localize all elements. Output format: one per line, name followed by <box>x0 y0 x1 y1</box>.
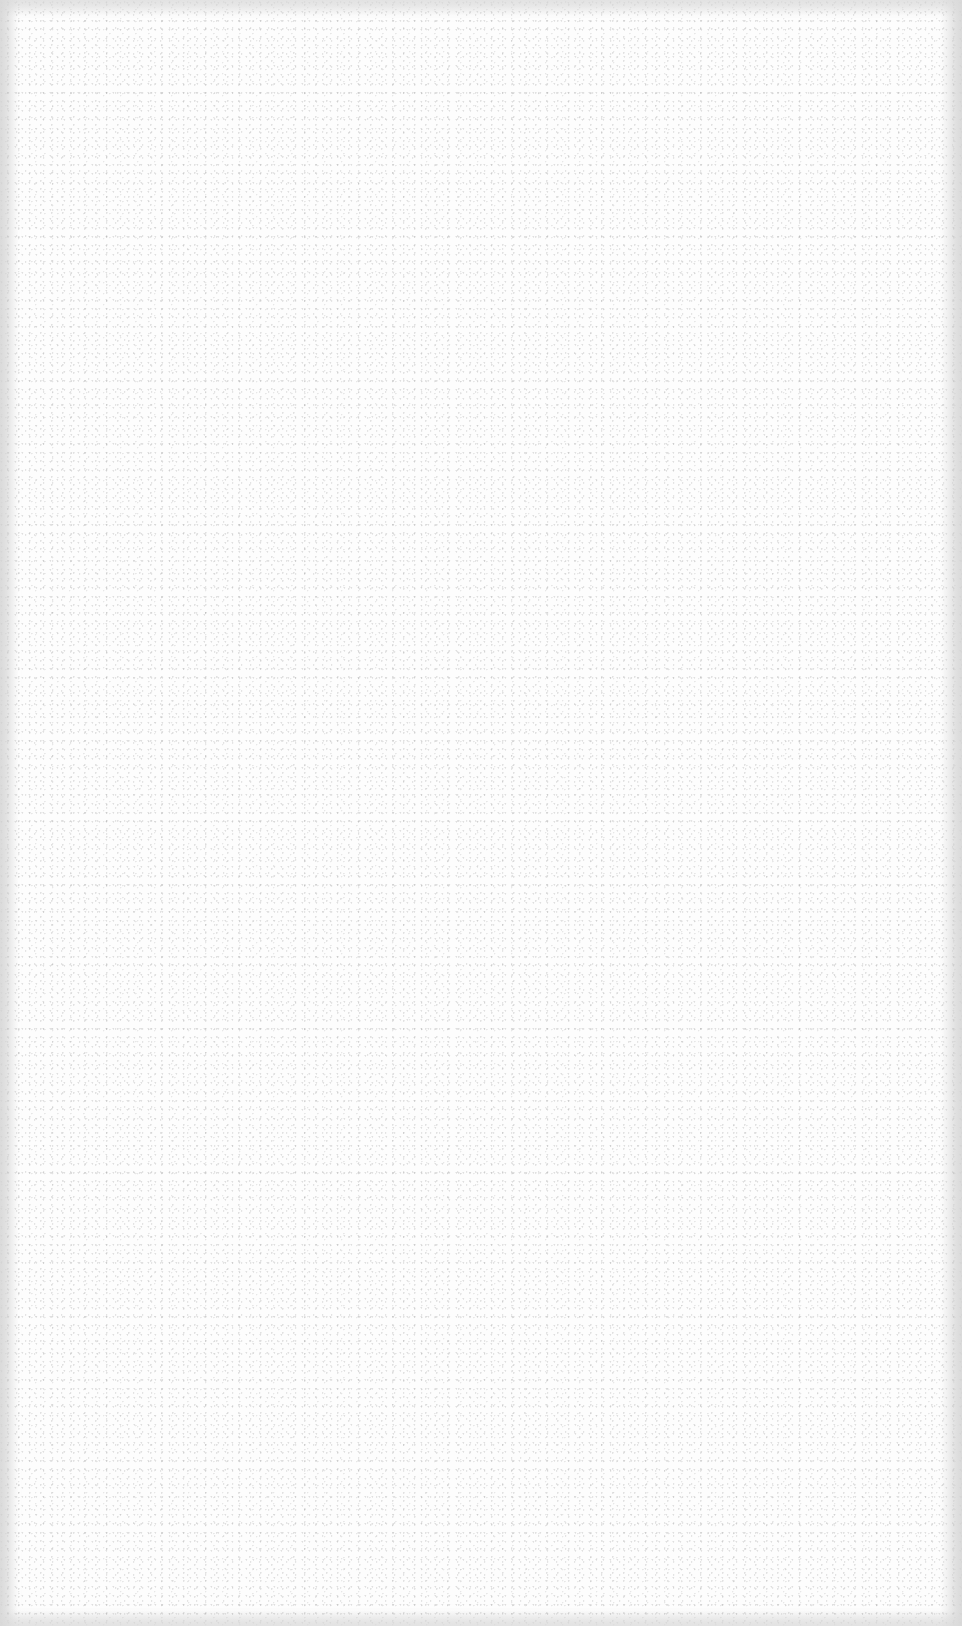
paper-speckle-texture <box>0 0 962 1626</box>
blank-paper-sheet <box>0 0 962 1626</box>
